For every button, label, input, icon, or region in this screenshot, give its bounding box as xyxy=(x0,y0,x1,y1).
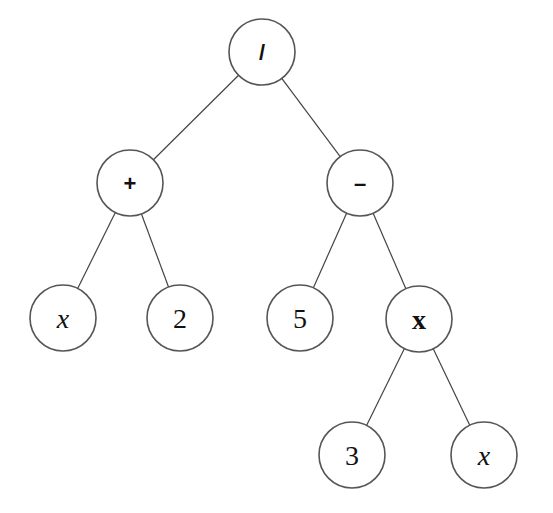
node-label: x xyxy=(412,304,426,335)
node-label: 5 xyxy=(293,303,307,334)
tree-node-plus: + xyxy=(97,150,163,216)
node-label: 2 xyxy=(173,303,187,334)
edge-minus-five xyxy=(313,213,346,288)
tree-node-minus: – xyxy=(327,150,393,216)
edge-times-three xyxy=(367,349,405,426)
expression-tree: /+–x25x3x xyxy=(0,0,553,513)
edge-plus-two xyxy=(141,214,168,287)
edge-root-plus xyxy=(153,75,238,160)
tree-node-times: x xyxy=(386,286,452,352)
node-label: / xyxy=(259,40,265,65)
tree-node-two: 2 xyxy=(147,285,213,351)
tree-node-x2: x xyxy=(451,422,517,488)
tree-node-x1: x xyxy=(30,285,96,351)
node-label: + xyxy=(124,171,137,196)
tree-node-three: 3 xyxy=(319,422,385,488)
edge-minus-times xyxy=(373,213,406,288)
edges xyxy=(78,75,470,425)
tree-node-root: / xyxy=(229,19,295,85)
edge-root-minus xyxy=(282,78,340,156)
edge-plus-x1 xyxy=(78,213,116,289)
node-label: – xyxy=(354,171,366,196)
node-label: x xyxy=(477,440,491,471)
tree-node-five: 5 xyxy=(267,285,333,351)
nodes: /+–x25x3x xyxy=(30,19,517,488)
node-label: 3 xyxy=(345,440,359,471)
edge-times-x2 xyxy=(433,349,470,425)
node-label: x xyxy=(56,303,70,334)
